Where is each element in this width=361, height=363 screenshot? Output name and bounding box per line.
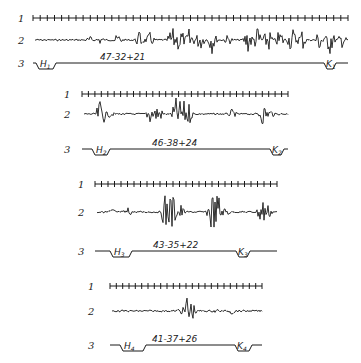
- end-marker-label: K2: [272, 145, 282, 156]
- row-label-3: 3: [18, 58, 24, 69]
- row-label-2: 2: [77, 207, 84, 218]
- emg-signal-trace: [112, 298, 262, 318]
- angle-annotation: 46-38+24: [152, 138, 197, 148]
- row-label-3: 3: [88, 340, 94, 351]
- panel-1: 123H1K147-32+21: [17, 13, 348, 71]
- emg-recording-figure: 123H1K147-32+21123H2K246-38+24123H3K343-…: [0, 0, 361, 363]
- start-marker-label: H1: [40, 59, 51, 70]
- emg-signal-trace: [35, 29, 348, 54]
- angle-annotation: 41-37+26: [152, 334, 197, 344]
- time-marker-trace: [82, 91, 288, 97]
- event-marker-trace: [33, 63, 348, 69]
- start-marker-label: H3: [114, 247, 125, 258]
- start-marker-label: H2: [96, 145, 107, 156]
- time-marker-trace: [95, 181, 277, 187]
- row-label-2: 2: [87, 306, 94, 317]
- end-marker-label: K1: [326, 59, 336, 70]
- time-marker-trace: [110, 283, 262, 289]
- row-label-2: 2: [63, 109, 70, 120]
- end-marker-label: K4: [237, 341, 247, 352]
- panel-4: 123H4K441-37+26: [87, 281, 262, 353]
- emg-signal-trace: [97, 196, 277, 227]
- angle-annotation: 43-35+22: [153, 240, 198, 250]
- row-label-2: 2: [17, 35, 24, 46]
- row-label-3: 3: [78, 246, 84, 257]
- row-label-1: 1: [64, 89, 70, 100]
- event-marker-trace: [82, 149, 288, 155]
- start-marker-label: H4: [124, 341, 135, 352]
- row-label-1: 1: [78, 179, 84, 190]
- panel-3: 123H3K343-35+22: [77, 179, 277, 259]
- row-label-3: 3: [64, 144, 70, 155]
- time-marker-trace: [33, 15, 348, 21]
- end-marker-label: K3: [238, 247, 248, 258]
- emg-signal-trace: [84, 98, 288, 123]
- row-label-1: 1: [18, 13, 24, 24]
- panel-2: 123H2K246-38+24: [63, 89, 288, 157]
- angle-annotation: 47-32+21: [100, 52, 145, 62]
- row-label-1: 1: [88, 281, 94, 292]
